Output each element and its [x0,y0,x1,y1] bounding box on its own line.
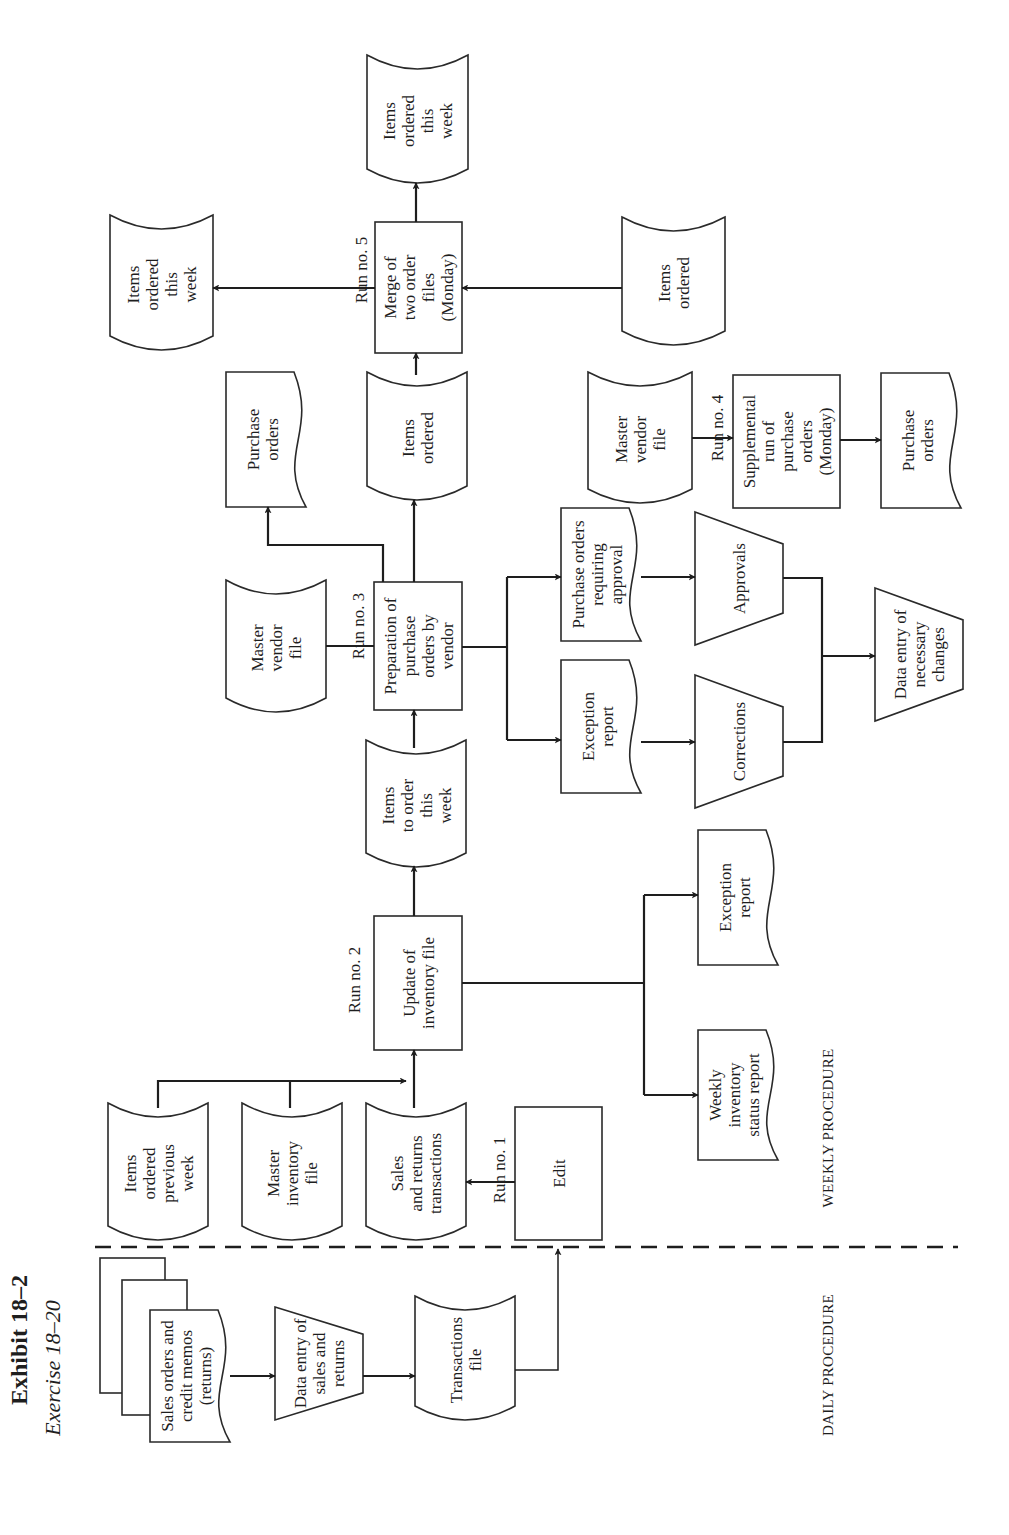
label-line: week [436,787,455,823]
label-line: week [437,103,456,139]
label-line: status report [744,1053,763,1137]
label-line: run of [759,421,778,462]
label-line: two order [400,254,419,320]
label-line: inventory [725,1062,744,1128]
label-line: ordered [140,1147,159,1199]
label-line: Sales orders and [158,1320,177,1432]
label-line: Purchase [899,410,918,471]
label-line: Edit [550,1159,569,1188]
run-1-label: Run no. 1 [490,1137,509,1204]
label-line: Merge of [381,256,400,319]
label-line: Sales [388,1156,407,1192]
edit-label: Edit [550,1159,569,1188]
label-line: vendor [267,624,286,672]
label-line: Update of [400,949,419,1017]
label-line: files [419,273,438,302]
label-line: returns [329,1340,348,1387]
label-line: this [162,272,181,297]
edge-prep-to-purchase-orders [268,507,383,582]
corrections-label: Corrections [730,702,749,781]
approvals-label: Approvals [730,543,749,614]
label-line: Corrections [730,702,749,781]
label-line: week [181,266,200,302]
label-line: sales and [310,1332,329,1394]
label-line: Supplemental [740,394,759,488]
flowchart: Exhibit 18–2 Exercise 18–20 DAILY PROCED… [0,0,1009,1535]
edge-transactions-to-edit [515,1249,558,1370]
run-2-label: Run no. 2 [345,947,364,1014]
label-line: Purchase orders [569,520,588,628]
label-line: orders [263,418,282,460]
weekly-procedure-label: WEEKLY PROCEDURE [820,1049,836,1208]
label-line: week [178,1155,197,1191]
label-line: vendor [438,622,457,670]
label-line: purchase [400,616,419,676]
label-line: changes [929,627,948,682]
label-line: Exception [716,863,735,932]
label-line: ordered [399,95,418,147]
label-line: Master [612,416,631,464]
label-line: Approvals [730,543,749,614]
label-line: Preparation of [381,597,400,694]
label-line: Items [121,1155,140,1193]
label-line: orders by [419,614,438,678]
label-line: previous [159,1144,178,1203]
update-inventory-label: Update ofinventory file [400,937,438,1029]
exhibit-subtitle: Exercise 18–20 [40,1300,65,1436]
run-3-label: Run no. 3 [349,593,368,660]
label-line: Items [399,419,418,457]
label-line: Exception [579,692,598,761]
label-line: Master [264,1150,283,1198]
label-line: Purchase [244,409,263,470]
label-line: requiring [588,543,607,606]
label-line: transactions [426,1133,445,1214]
label-line: Weekly [706,1069,725,1121]
label-line: ordered [418,412,437,464]
daily-procedure-label: DAILY PROCEDURE [820,1294,836,1436]
label-line: this [417,793,436,818]
label-line: Items [124,266,143,304]
label-line: purchase [778,411,797,471]
label-line: approval [607,544,626,604]
label-line: file [466,1349,485,1372]
run-5-label: Run no. 5 [352,237,371,304]
label-line: ordered [674,257,693,309]
items-ordered-1-label: Itemsordered [399,412,437,464]
label-line: inventory file [419,937,438,1029]
label-line: to order [398,778,417,832]
label-line: (returns) [196,1347,215,1406]
label-line: (Monday) [438,254,457,322]
label-line: vendor [631,416,650,464]
label-line: credit memos [177,1330,196,1422]
label-line: orders [797,420,816,462]
label-line: ordered [143,258,162,310]
label-line: and returns [407,1135,426,1211]
label-line: necessary [910,621,929,688]
label-line: Data entry of [291,1318,310,1408]
items-ordered-2-label: Itemsordered [655,257,693,309]
label-line: this [418,109,437,134]
label-line: report [598,706,617,747]
label-line: Items [379,787,398,825]
label-line: Items [380,102,399,140]
label-line: orders [918,419,937,461]
label-line: Items [655,264,674,302]
exhibit-title: Exhibit 18–2 [6,1275,32,1405]
run-4-label: Run no. 4 [708,394,727,461]
label-line: Master [248,624,267,672]
edge-approvals-corrections-join [783,578,822,742]
label-line: inventory [283,1140,302,1206]
label-line: file [286,637,305,660]
label-line: (Monday) [816,408,835,476]
label-line: report [735,877,754,918]
label-line: file [302,1162,321,1185]
label-line: Data entry of [891,609,910,699]
label-line: Transactions [447,1317,466,1403]
label-line: file [650,428,669,451]
